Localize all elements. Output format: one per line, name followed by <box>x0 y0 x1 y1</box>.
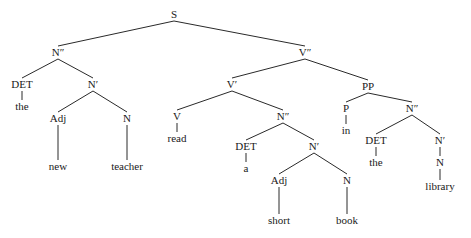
tree-node-a: a <box>244 162 249 174</box>
tree-edge <box>22 59 58 78</box>
tree-edge <box>246 123 283 140</box>
tree-edge <box>232 59 305 78</box>
tree-node-npp3: N″ <box>406 102 419 114</box>
tree-node-det1: DET <box>11 78 33 90</box>
tree-edge <box>314 153 347 174</box>
tree-node-s: S <box>171 8 177 20</box>
tree-node-vpp: V″ <box>299 46 312 58</box>
tree-edge <box>279 153 314 174</box>
tree-edge <box>58 21 174 46</box>
tree-node-book: book <box>336 214 359 226</box>
tree-node-det2: DET <box>235 140 257 152</box>
tree-node-pp: PP <box>362 80 374 92</box>
tree-node-in: in <box>342 124 351 136</box>
tree-node-the2: the <box>369 156 383 168</box>
syntax-tree-diagram: SN″DETtheN′AdjnewNteacherV″V′VreadN″DETa… <box>0 0 471 238</box>
tree-node-det3: DET <box>365 134 387 146</box>
tree-node-vp: V′ <box>227 78 237 90</box>
tree-node-the1: the <box>15 100 29 112</box>
tree-edge <box>58 59 93 78</box>
tree-edge <box>368 93 412 102</box>
tree-node-np2: N′ <box>309 140 319 152</box>
tree-node-teacher: teacher <box>111 160 143 172</box>
tree-edges <box>22 21 440 214</box>
tree-labels: SN″DETtheN′AdjnewNteacherV″V′VreadN″DETa… <box>11 8 455 226</box>
tree-node-np3: N′ <box>435 134 445 146</box>
tree-edge <box>305 59 368 80</box>
tree-node-v: V <box>173 110 181 122</box>
tree-edge <box>283 123 314 140</box>
tree-node-n1: N <box>123 112 131 124</box>
tree-node-read: read <box>168 132 187 144</box>
tree-edge <box>174 21 305 46</box>
tree-node-p: P <box>343 102 349 114</box>
tree-edge <box>232 91 283 110</box>
tree-edge <box>58 91 93 112</box>
tree-node-short: short <box>268 214 290 226</box>
tree-edge <box>177 91 232 110</box>
tree-node-npp2: N″ <box>277 110 290 122</box>
tree-edge <box>93 91 127 112</box>
tree-node-np1: N′ <box>88 78 98 90</box>
tree-node-npp1: N″ <box>52 46 65 58</box>
tree-edge <box>376 115 412 134</box>
tree-node-n3: N <box>436 156 444 168</box>
tree-edge <box>346 93 368 102</box>
tree-edge <box>412 115 440 134</box>
tree-node-library: library <box>425 180 455 192</box>
tree-node-adj1: Adj <box>50 112 67 124</box>
tree-node-new: new <box>49 160 67 172</box>
tree-node-adj2: Adj <box>271 174 288 186</box>
tree-node-n2: N <box>343 174 351 186</box>
tree-svg: SN″DETtheN′AdjnewNteacherV″V′VreadN″DETa… <box>0 0 471 238</box>
